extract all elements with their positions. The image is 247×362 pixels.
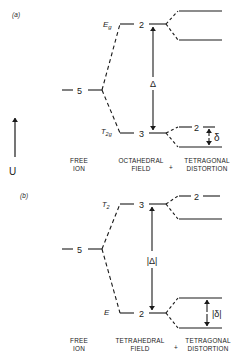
t2-split-upper-degeneracy: 2 bbox=[194, 192, 199, 202]
t2g-symbol: T2g bbox=[101, 127, 113, 137]
abs-small-delta-label: |δ| bbox=[212, 309, 222, 319]
panel-a-label: (a) bbox=[12, 11, 20, 19]
crystal-field-splitting-diagram: (a) Eg 2 T2g 3 5 Δ 2 δ U FREE ION OCTAHE… bbox=[0, 0, 247, 362]
free-ion-degeneracy-a: 5 bbox=[77, 86, 82, 96]
t2g-split-dash-up bbox=[166, 127, 178, 133]
t2g-split-dash-down bbox=[166, 133, 178, 147]
abs-delta-label: |Δ| bbox=[147, 256, 158, 266]
tetragonal-label-b-2: DISTORTION bbox=[187, 345, 228, 352]
t2-split-dash-down bbox=[166, 204, 178, 219]
free-ion-degeneracy-b: 5 bbox=[77, 245, 82, 255]
tetragonal-label-b-1: TETRAGONAL bbox=[185, 337, 231, 344]
panel-a-text: (a) Eg 2 T2g 3 5 Δ 2 δ U FREE ION OCTAHE… bbox=[9, 11, 230, 177]
delta-label-a: Δ bbox=[150, 79, 156, 89]
eg-symbol: Eg bbox=[103, 20, 112, 30]
t2-split-dash-up bbox=[166, 196, 178, 204]
eg-split-dash-down bbox=[166, 24, 178, 40]
small-delta-label-a: δ bbox=[214, 132, 220, 143]
t2-symbol: T2 bbox=[102, 200, 110, 210]
free-ion-label-b-2: ION bbox=[73, 345, 85, 352]
octahedral-label-2: FIELD bbox=[131, 165, 150, 172]
panel-b-label: (b) bbox=[20, 192, 28, 200]
plus-sign-a: + bbox=[169, 164, 173, 171]
energy-axis-label: U bbox=[9, 166, 16, 177]
correlation-line-upper bbox=[102, 24, 120, 90]
eg-degeneracy: 2 bbox=[139, 20, 144, 30]
correlation-line-b-lower bbox=[102, 249, 120, 313]
tetrahedral-label-1: TETRAHEDRAL bbox=[115, 337, 164, 344]
eg-split-dash-up bbox=[166, 11, 178, 24]
t2-degeneracy: 3 bbox=[139, 200, 144, 210]
free-ion-label-b-1: FREE bbox=[70, 337, 88, 344]
tetrahedral-label-2: FIELD bbox=[130, 345, 149, 352]
t2g-split-upper-degeneracy: 2 bbox=[194, 123, 199, 133]
e-split-dash-up bbox=[166, 298, 178, 313]
tetragonal-label-a-1: TETRAGONAL bbox=[184, 157, 230, 164]
e-degeneracy: 2 bbox=[139, 309, 144, 319]
e-split-dash-down bbox=[166, 313, 178, 328]
tetragonal-label-a-2: DISTORTION bbox=[186, 165, 227, 172]
plus-sign-b: + bbox=[174, 344, 178, 351]
e-symbol: E bbox=[104, 308, 110, 317]
octahedral-label-1: OCTAHEDRAL bbox=[118, 157, 163, 164]
t2g-degeneracy: 3 bbox=[139, 129, 144, 139]
free-ion-label-a-2: ION bbox=[73, 165, 85, 172]
free-ion-label-a-1: FREE bbox=[70, 157, 88, 164]
correlation-line-b-upper bbox=[102, 204, 120, 249]
